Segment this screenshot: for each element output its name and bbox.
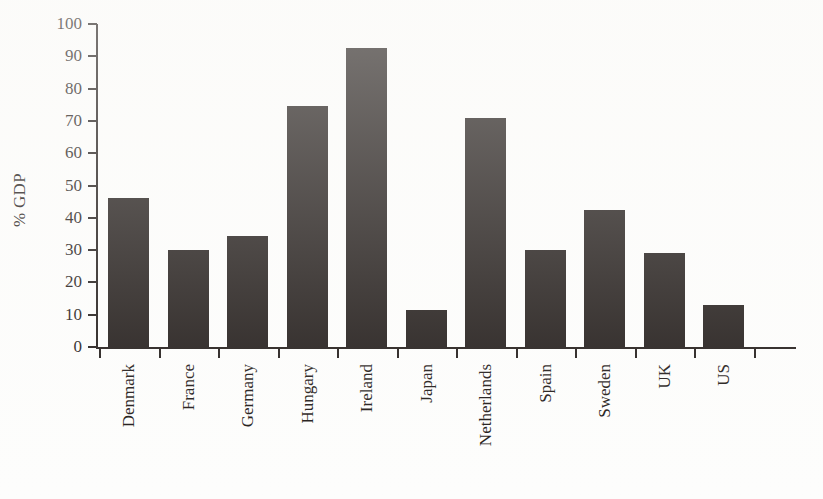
x-axis-tick [694, 349, 696, 358]
bar [703, 305, 744, 347]
x-axis-label: UK [654, 364, 676, 389]
x-axis-label-slot: Denmark [106, 364, 152, 494]
x-axis-label: Denmark [118, 364, 140, 427]
x-axis-label: Germany [237, 364, 259, 427]
x-axis-line [96, 347, 796, 349]
y-axis-tick-label-text: 80 [30, 80, 82, 97]
x-axis-tick [218, 349, 220, 358]
x-axis-tick [575, 349, 577, 358]
x-axis-label: France [178, 364, 200, 410]
bar [465, 118, 506, 347]
bar [346, 48, 387, 347]
x-axis-label-slot: France [166, 364, 212, 494]
x-axis-label-slot: Japan [404, 364, 450, 494]
x-axis-label-slot: Spain [523, 364, 569, 494]
x-axis-tick [337, 349, 339, 358]
y-axis-tick-label-text: 0 [30, 338, 82, 355]
y-axis-tick-label: 80 [20, 80, 82, 97]
x-axis-tick [516, 349, 518, 358]
x-axis-label: Spain [535, 364, 557, 403]
y-axis-tick-label-text: 30 [30, 241, 82, 258]
y-axis-tick [88, 217, 97, 219]
bar [584, 210, 625, 347]
y-axis-tick-label: 50 [20, 177, 82, 194]
x-axis-label-slot: Sweden [582, 364, 628, 494]
bar [287, 106, 328, 347]
x-axis-label-slot: US [701, 364, 747, 494]
y-axis-tick-label-text: 60 [30, 144, 82, 161]
x-axis-tick [99, 349, 101, 358]
y-axis-tick [88, 23, 97, 25]
x-axis-label: Ireland [356, 364, 378, 412]
y-axis-tick [88, 185, 97, 187]
x-axis-label-slot: Germany [225, 364, 271, 494]
bar [525, 250, 566, 347]
y-axis-tick-label-text: 100 [30, 15, 82, 32]
x-axis-label-slot: Ireland [344, 364, 390, 494]
bar [644, 253, 685, 347]
x-axis-tick [635, 349, 637, 358]
y-axis-tick-label: 100 [20, 15, 82, 32]
y-axis-tick-label-text: 40 [30, 209, 82, 226]
x-axis-label-slot: UK [642, 364, 688, 494]
y-axis-tick [88, 120, 97, 122]
bar [227, 236, 268, 347]
bar [108, 198, 149, 347]
y-axis-tick [88, 314, 97, 316]
bar [168, 250, 209, 347]
y-axis-tick [88, 281, 97, 283]
y-axis-tick-label: 20 [20, 273, 82, 290]
x-axis-tick [278, 349, 280, 358]
bar [406, 310, 447, 347]
x-axis-tick [397, 349, 399, 358]
y-axis-tick-label-text: 70 [30, 112, 82, 129]
y-axis-tick [88, 346, 97, 348]
y-axis-tick-label-text: 20 [30, 273, 82, 290]
y-axis-tick [88, 152, 97, 154]
y-axis-tick-label: 40 [20, 209, 82, 226]
x-axis-tick [456, 349, 458, 358]
y-axis-tick-label: 10 [20, 306, 82, 323]
x-axis-label: Sweden [594, 364, 616, 418]
y-axis-tick-label: 90 [20, 47, 82, 64]
y-axis-line [96, 24, 98, 349]
x-axis-tick [159, 349, 161, 358]
x-axis-label-slot: Netherlands [463, 364, 509, 494]
y-axis-tick-label: 30 [20, 241, 82, 258]
y-axis-tick [88, 55, 97, 57]
x-axis-tick [754, 349, 756, 358]
y-axis-tick-label: 70 [20, 112, 82, 129]
y-axis-tick [88, 249, 97, 251]
y-axis-tick-label-text: 50 [30, 177, 82, 194]
x-axis-label-slot: Hungary [285, 364, 331, 494]
y-axis-tick-label-text: 90 [30, 47, 82, 64]
bar-chart-figure: % GDP 1009080706050403020100 DenmarkFran… [0, 0, 823, 499]
x-axis-label: Netherlands [475, 364, 497, 446]
x-axis-label: Hungary [297, 364, 319, 423]
x-axis-label: US [713, 364, 735, 386]
y-axis-tick-label: 0 [20, 338, 82, 355]
y-axis-tick-label-text: 10 [30, 306, 82, 323]
y-axis-tick [88, 88, 97, 90]
x-axis-label: Japan [416, 364, 438, 403]
y-axis-tick-label: 60 [20, 144, 82, 161]
